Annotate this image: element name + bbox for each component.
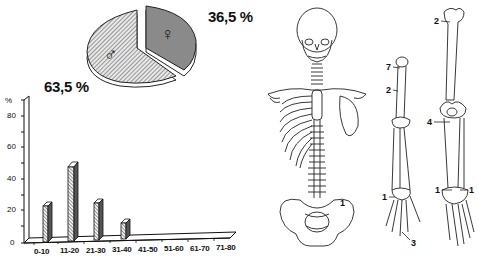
label-tibia: 4 xyxy=(427,117,432,127)
x-cat-21-30: 21-30 xyxy=(86,246,105,255)
male-symbol-icon: ♂ xyxy=(104,44,118,65)
x-cat-71-80: 71-80 xyxy=(216,243,235,252)
pie-label-male: 63,5 % xyxy=(44,78,89,95)
full-skeleton xyxy=(268,8,366,246)
arm-skeleton xyxy=(386,57,420,236)
label-femur: 2 xyxy=(434,16,439,26)
x-cat-11-20: 11-20 xyxy=(60,246,79,255)
bar-31-40 xyxy=(121,219,130,239)
label-ankle-left: 1 xyxy=(435,185,440,195)
y-tick-20: 20 xyxy=(7,205,16,214)
y-tick-0: 0 xyxy=(10,238,14,247)
x-cat-0-10: 0-10 xyxy=(34,247,49,256)
pie-label-female: 36,5 % xyxy=(208,8,253,25)
x-cat-31-40: 31-40 xyxy=(112,245,131,254)
label-arm-top: 7 xyxy=(386,62,391,72)
bar-0-10 xyxy=(43,202,52,242)
female-symbol-icon: ♀ xyxy=(161,24,175,45)
x-cat-51-60: 51-60 xyxy=(164,244,183,253)
x-cat-41-50: 41-50 xyxy=(138,245,157,254)
leg-skeleton xyxy=(440,8,474,246)
bar-chart xyxy=(21,96,236,245)
bar-11-20 xyxy=(68,162,78,241)
label-wrist: 1 xyxy=(382,192,387,202)
label-pelvis: 1 xyxy=(340,198,345,208)
label-ankle-right: 1 xyxy=(469,185,474,195)
y-tick-60: 60 xyxy=(7,142,16,151)
y-tick-80: 80 xyxy=(7,111,16,120)
label-hand: 3 xyxy=(411,238,416,248)
y-axis-unit: % xyxy=(5,96,12,105)
y-tick-40: 40 xyxy=(7,174,16,183)
bar-21-30 xyxy=(94,199,103,240)
label-humerus: 2 xyxy=(386,85,391,95)
x-cat-61-70: 61-70 xyxy=(190,244,209,253)
figure-canvas xyxy=(0,0,478,260)
